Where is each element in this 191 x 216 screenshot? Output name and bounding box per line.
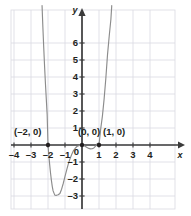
x-tick-label: –2 xyxy=(43,150,54,160)
y-tick-label: 3 xyxy=(73,89,78,99)
origin-label: 0 xyxy=(74,147,79,157)
x-tick-label: 2 xyxy=(113,150,118,160)
x-tick-label: 3 xyxy=(130,150,135,160)
y-tick-label: –1 xyxy=(67,157,78,167)
x-tick-label: 4 xyxy=(147,150,152,160)
grid-lines xyxy=(11,10,175,209)
coordinate-plane xyxy=(0,0,191,216)
x-tick-label: 1 xyxy=(96,150,101,160)
graph-figure: –4–3–2–11234–3–2–11234560xy(–2, 0)(0, 0)… xyxy=(0,0,191,216)
x-axis-name: x xyxy=(177,151,182,160)
y-tick-label: 4 xyxy=(73,72,78,82)
intercept-label: (0, 0) xyxy=(78,127,100,137)
y-tick-label: –2 xyxy=(67,174,78,184)
y-axis-name: y xyxy=(72,6,77,15)
y-tick-label: 6 xyxy=(73,38,78,48)
x-tick-label: –4 xyxy=(9,150,20,160)
intercept-label: (1, 0) xyxy=(103,127,125,137)
y-tick-label: –3 xyxy=(67,191,78,201)
y-tick-label: 5 xyxy=(73,55,78,65)
x-tick-label: –3 xyxy=(26,150,37,160)
y-tick-label: 2 xyxy=(73,106,78,116)
intercept-label: (–2, 0) xyxy=(14,127,41,137)
